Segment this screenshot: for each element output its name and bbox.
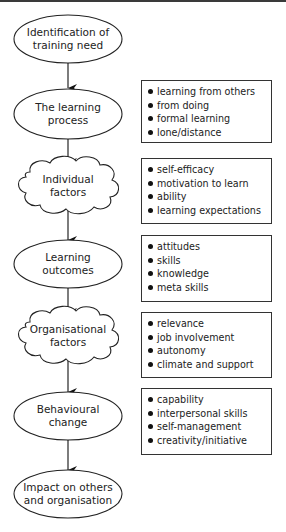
list-item: relevance [148,317,271,331]
list-item: interpersonal skills [148,407,271,421]
list-item: climate and support [148,358,271,372]
list-item-text: relevance [157,317,204,331]
bullet-icon [148,285,153,290]
bullet-icon [148,321,153,326]
node-learning-process-line2: process [48,114,88,127]
node-impact-label: Impact on others and organisation [14,472,122,516]
list-item-text: attitudes [157,240,200,254]
bullet-icon [148,438,153,443]
node-identification-line2: training need [33,39,103,52]
bullet-icon [148,194,153,199]
list-item: learning expectations [148,204,271,218]
node-impact-line1: Impact on others [23,481,113,494]
node-impact-line2: and organisation [24,494,112,507]
bullet-icon [148,167,153,172]
list-item: skills [148,254,271,268]
list-item: job involvement [148,331,271,345]
node-learning-outcomes-line1: Learning [45,251,91,264]
list-item: from doing [148,99,271,113]
list-item: learning from others [148,85,271,99]
list-item-text: lone/distance [157,126,221,140]
node-organisational-factors-line2: factors [50,336,86,349]
bullet-icon [148,181,153,186]
list-item-text: from doing [157,99,209,113]
bullet-icon [148,258,153,263]
list-item-text: self-management [157,420,241,434]
list-item-text: motivation to learn [157,177,249,191]
list-item: self-efficacy [148,163,271,177]
list-item-text: learning expectations [157,204,261,218]
list-item: lone/distance [148,126,271,140]
list-item: attitudes [148,240,271,254]
list-item: formal learning [148,112,271,126]
list-item: self-management [148,420,271,434]
list-item-text: job involvement [157,331,234,345]
list-item-text: formal learning [157,112,230,126]
list-item: ability [148,190,271,204]
node-organisational-factors-line1: Organisational [30,323,106,336]
bullet-icon [148,411,153,416]
node-identification-line1: Identification of [27,26,109,39]
box-learning-outcomes: attitudes skills knowledge meta skills [141,235,272,302]
box-learning-process: learning from others from doing formal l… [141,80,272,143]
bullet-icon [148,116,153,121]
bullet-list: attitudes skills knowledge meta skills [148,240,271,294]
list-item-text: climate and support [157,358,253,372]
bullet-list: self-efficacy motivation to learn abilit… [148,163,271,217]
node-learning-process-line1: The learning [35,101,101,114]
bullet-icon [148,208,153,213]
list-item: creativity/initiative [148,434,271,448]
bullet-icon [148,397,153,402]
bullet-icon [148,362,153,367]
node-identification-label: Identification of training need [14,17,122,61]
list-item-text: self-efficacy [157,163,214,177]
node-behavioural-change-label: Behavioural change [14,394,122,438]
bullet-icon [148,348,153,353]
bullet-icon [148,244,153,249]
node-individual-factors-label: Individual factors [14,164,122,208]
node-learning-process-label: The learning process [14,92,122,136]
list-item: meta skills [148,281,271,295]
node-behavioural-change-line2: change [49,416,88,429]
node-learning-outcomes-line2: outcomes [42,264,94,277]
list-item-text: meta skills [157,281,209,295]
box-behavioural-change: capability interpersonal skills self-man… [141,388,272,455]
list-item-text: ability [157,190,186,204]
node-individual-factors-line1: Individual [42,173,93,186]
node-behavioural-change-line1: Behavioural [37,403,100,416]
list-item-text: learning from others [157,85,255,99]
list-item-text: capability [157,393,204,407]
box-organisational-factors: relevance job involvement autonomy clima… [141,312,272,378]
bullet-list: capability interpersonal skills self-man… [148,393,271,447]
bullet-icon [148,89,153,94]
list-item-text: creativity/initiative [157,434,247,448]
bullet-icon [148,271,153,276]
list-item: knowledge [148,267,271,281]
bullet-list: relevance job involvement autonomy clima… [148,317,271,371]
list-item: capability [148,393,271,407]
list-item-text: autonomy [157,344,206,358]
list-item-text: knowledge [157,267,209,281]
bullet-icon [148,103,153,108]
bullet-icon [148,335,153,340]
bullet-icon [148,424,153,429]
list-item-text: skills [157,254,181,268]
bullet-icon [148,130,153,135]
node-organisational-factors-label: Organisational factors [14,314,122,358]
box-individual-factors: self-efficacy motivation to learn abilit… [141,158,272,224]
node-learning-outcomes-label: Learning outcomes [14,242,122,286]
list-item: motivation to learn [148,177,271,191]
bullet-list: learning from others from doing formal l… [148,85,271,139]
list-item: autonomy [148,344,271,358]
list-item-text: interpersonal skills [157,407,247,421]
node-individual-factors-line2: factors [50,186,86,199]
